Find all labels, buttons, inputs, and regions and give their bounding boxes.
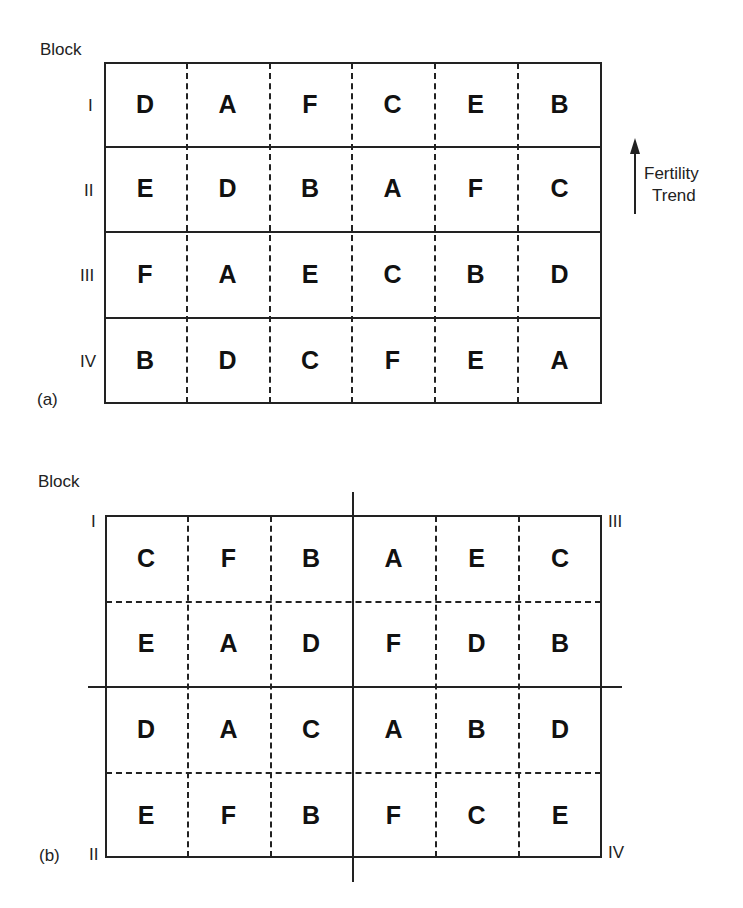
plot-cell: B: [518, 601, 602, 686]
plot-cell: A: [352, 515, 435, 601]
block-label-III: III: [608, 512, 622, 532]
plot-cell: A: [517, 317, 602, 404]
plot-cell: A: [187, 601, 270, 686]
block-header-a: Block: [40, 40, 82, 60]
fertility-trend-label: Fertility Trend: [644, 163, 699, 207]
plot-cell: F: [352, 601, 435, 686]
plot-cell: D: [105, 686, 187, 772]
plot-cell: F: [269, 62, 351, 146]
plot-cell: C: [435, 772, 518, 858]
plot-cell: C: [351, 62, 434, 146]
plot-cell: B: [270, 772, 352, 858]
plot-cell: D: [435, 601, 518, 686]
plot-cell: F: [434, 146, 517, 231]
plot-cell: E: [269, 231, 351, 317]
block-label-III: III: [80, 266, 94, 286]
plot-cell: A: [351, 146, 434, 231]
plot-cell: A: [352, 686, 435, 772]
plot-cell: C: [269, 317, 351, 404]
plot-cell: D: [186, 146, 269, 231]
block-label-I: I: [91, 512, 96, 532]
plot-cell: C: [517, 146, 602, 231]
block-label-II: II: [84, 181, 93, 201]
plot-cell: F: [352, 772, 435, 858]
plot-cell: D: [104, 62, 186, 146]
plot-cell: B: [435, 686, 518, 772]
plot-cell: B: [104, 317, 186, 404]
block-header-b: Block: [38, 472, 80, 492]
plot-cell: E: [105, 601, 187, 686]
plot-cell: D: [518, 686, 602, 772]
plot-cell: E: [104, 146, 186, 231]
trend-line-1: Fertility: [644, 163, 699, 185]
up-arrow-icon: [627, 136, 643, 216]
plot-cell: F: [187, 515, 270, 601]
plot-cell: A: [186, 231, 269, 317]
plot-cell: E: [434, 62, 517, 146]
plot-cell: D: [270, 601, 352, 686]
plot-cell: E: [518, 772, 602, 858]
plot-cell: D: [517, 231, 602, 317]
trend-line-2: Trend: [644, 185, 699, 207]
plot-cell: B: [270, 515, 352, 601]
plot-cell: A: [187, 686, 270, 772]
plot-cell: B: [434, 231, 517, 317]
plot-cell: C: [105, 515, 187, 601]
plot-cell: F: [104, 231, 186, 317]
plot-cell: E: [105, 772, 187, 858]
plot-cell: E: [434, 317, 517, 404]
plot-cell: B: [269, 146, 351, 231]
plot-cell: E: [435, 515, 518, 601]
plot-cell: C: [351, 231, 434, 317]
panel-label-a: (a): [37, 390, 58, 410]
plot-cell: D: [186, 317, 269, 404]
plot-cell: F: [187, 772, 270, 858]
block-label-IV: IV: [608, 843, 624, 863]
plot-cell: A: [186, 62, 269, 146]
block-label-II: II: [89, 845, 98, 865]
plot-cell: C: [270, 686, 352, 772]
panel-label-b: (b): [39, 846, 60, 866]
block-label-I: I: [88, 96, 93, 116]
plot-cell: F: [351, 317, 434, 404]
plot-cell: B: [517, 62, 602, 146]
block-label-IV: IV: [80, 352, 96, 372]
plot-cell: C: [518, 515, 602, 601]
